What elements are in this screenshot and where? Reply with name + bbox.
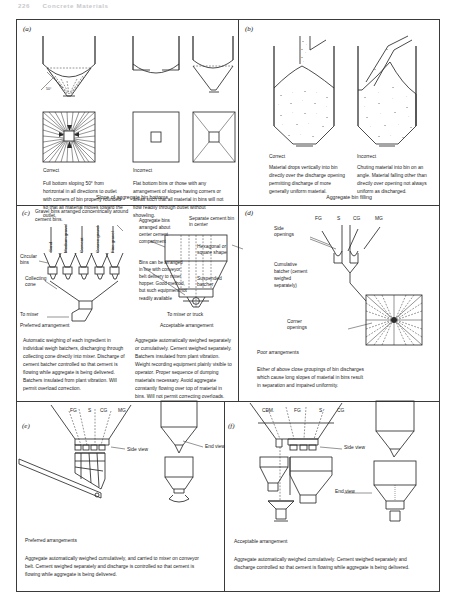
svg-text:∘: ∘ xyxy=(374,67,376,71)
panel-a-incorrect-label: Incorrect xyxy=(133,168,152,174)
svg-text:∘: ∘ xyxy=(364,95,366,99)
svg-text:∘: ∘ xyxy=(288,133,290,137)
panel-d-suspended-batcher-label: Suspended batcher xyxy=(197,276,231,289)
panel-b-incorrect-label: Incorrect xyxy=(357,154,376,160)
panel-b-correct-text: Material drops vertically into bin direc… xyxy=(269,164,349,196)
panel-f-side-view-label: Side view xyxy=(344,445,365,451)
svg-text:·: · xyxy=(308,122,309,126)
panel-a-correct-label: Correct xyxy=(43,168,59,174)
svg-text:·: · xyxy=(278,103,279,107)
svg-text:∘: ∘ xyxy=(378,101,380,105)
panel-e-preferred-label: Preferred arrangements xyxy=(25,538,77,544)
panel-c-note-1: Aggregate bins arranged about center cem… xyxy=(139,217,183,245)
svg-text:∘: ∘ xyxy=(304,111,306,115)
panel-d-poor-text: Either of above close groupings of bin d… xyxy=(257,366,367,390)
svg-text:∘: ∘ xyxy=(314,101,316,105)
svg-text:∘: ∘ xyxy=(386,47,388,51)
svg-text:·: · xyxy=(300,133,301,137)
panel-d-poor-label: Poor arrangements xyxy=(257,350,299,356)
svg-text:·: · xyxy=(380,57,381,61)
panel-c-to-mixer-truck-label: To mixer or truck xyxy=(167,312,203,318)
svg-text:·: · xyxy=(305,51,306,55)
svg-text:·: · xyxy=(302,99,303,103)
svg-text:∘: ∘ xyxy=(280,93,282,97)
section-slope-label: Slope of aggregate bin bottoms xyxy=(52,194,212,200)
svg-text:∘: ∘ xyxy=(394,110,396,114)
svg-text:∘: ∘ xyxy=(304,89,306,93)
svg-text:·: · xyxy=(406,95,407,99)
svg-text:∘: ∘ xyxy=(410,125,412,129)
panel-e-side-view-label: Side view xyxy=(127,447,148,453)
panel-c-preferred-text: Automatic weighing of each ingredient in… xyxy=(23,337,127,393)
panel-c-preferred-label: Preferred arrangement xyxy=(20,323,69,329)
panel-b-correct-label: Correct xyxy=(269,154,285,160)
panel-d-hexagonal-label: Hexagonal or square shape xyxy=(197,244,237,257)
panel-c-circular-bins-label: Circular bins xyxy=(20,254,42,267)
panel-c-note-2: Bins can be arranged in line with convey… xyxy=(139,259,187,302)
svg-text:·: · xyxy=(326,105,327,109)
svg-text:∘: ∘ xyxy=(296,122,298,126)
svg-text:·: · xyxy=(306,43,307,47)
svg-text:∘: ∘ xyxy=(366,115,368,119)
page-number: 226 xyxy=(18,2,30,9)
svg-text:·: · xyxy=(303,60,304,64)
panel-d-side-openings-label: Side openings xyxy=(274,226,302,239)
svg-text:∘: ∘ xyxy=(326,115,328,119)
panel-c-acceptable-label: Acceptable arrangement xyxy=(160,323,213,329)
chapter-title: Concrete Materials xyxy=(42,2,108,9)
svg-text:·: · xyxy=(364,105,365,109)
svg-text:·: · xyxy=(368,77,369,81)
svg-text:·: · xyxy=(380,112,381,116)
svg-text:∘: ∘ xyxy=(301,55,303,59)
svg-text:∘: ∘ xyxy=(302,39,304,43)
svg-text:·: · xyxy=(292,91,293,95)
panel-f-end-view-label: End view xyxy=(335,489,355,495)
svg-text:·: · xyxy=(316,112,317,116)
svg-text:·: · xyxy=(292,111,293,115)
panel-f-text: Aggregate automatically weighed cumulati… xyxy=(234,556,410,572)
svg-text:∘: ∘ xyxy=(301,47,303,51)
svg-text:∘: ∘ xyxy=(384,123,386,127)
panel-d-corner-openings-label: Corner openings xyxy=(287,319,313,332)
panel-f-acceptable-label: Acceptable arrangement xyxy=(234,539,287,545)
svg-text:·: · xyxy=(398,123,399,127)
panel-e-end-view-label: End view xyxy=(205,444,225,450)
figure-frame: (a) 50° xyxy=(16,19,440,592)
panel-b-incorrect-text: Chuting material into bin on an angle. M… xyxy=(357,164,435,196)
panel-c-collecting-cone-label: Collecting cone xyxy=(25,276,49,289)
svg-text:∘: ∘ xyxy=(290,101,292,105)
panel-c-separate-cement-label: Separate cement bin in center xyxy=(189,216,237,229)
svg-text:·: · xyxy=(282,123,283,127)
svg-text:·: · xyxy=(378,91,379,95)
running-head: 226 Concrete Materials xyxy=(18,2,109,9)
svg-text:·: · xyxy=(408,115,409,119)
svg-text:∘: ∘ xyxy=(322,124,324,128)
panel-c-acceptable-text: Aggregate automatically weighed separate… xyxy=(135,337,233,401)
panel-a-drawing: 50° xyxy=(17,20,238,190)
panel-c-to-mixer-label: To mixer xyxy=(20,312,38,318)
svg-text:·: · xyxy=(370,125,371,129)
panel-e-text: Aggregate automatically weighed cumulati… xyxy=(25,555,205,579)
svg-text:·: · xyxy=(316,91,317,95)
panel-d-cumulative-label: Cumulative batcher (cement weighed separ… xyxy=(274,261,308,289)
svg-text:∘: ∘ xyxy=(280,113,282,117)
section-filling-label: Aggregate bin filling xyxy=(279,194,419,200)
svg-text:∘: ∘ xyxy=(326,95,328,99)
svg-text:∘: ∘ xyxy=(392,85,394,89)
svg-text:·: · xyxy=(390,134,391,138)
figure-page: 226 Concrete Materials (a) 5 xyxy=(0,0,453,609)
svg-text:·: · xyxy=(392,97,393,101)
svg-text:∘: ∘ xyxy=(312,134,314,138)
svg-text:50°: 50° xyxy=(46,87,52,91)
svg-text:∘: ∘ xyxy=(378,134,380,138)
svg-text:∘: ∘ xyxy=(406,105,408,109)
svg-text:∘: ∘ xyxy=(402,135,404,139)
